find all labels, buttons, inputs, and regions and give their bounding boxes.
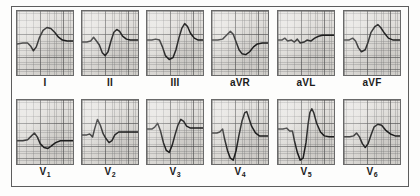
lead-label-sub-V4: 4	[242, 171, 246, 178]
lead-label-sub-V2: 2	[112, 171, 116, 178]
lead-panel-V3: V3	[146, 97, 204, 185]
lead-panel-aVL: aVL	[277, 8, 335, 96]
ecg-grid-paper-V2	[81, 99, 139, 165]
lead-label-text-V3: V	[170, 166, 177, 177]
figure-frame: I II III	[11, 6, 409, 187]
ecg-grid-paper-III	[146, 10, 204, 76]
ecg-waveform-path-V5	[278, 109, 334, 160]
lead-label-text-V4: V	[235, 166, 242, 177]
ecg-grid-paper-aVF	[343, 10, 401, 76]
ecg-trace-V5	[278, 100, 334, 164]
ecg-waveform-path-aVL	[278, 35, 334, 43]
ecg-grid-paper-V6	[343, 99, 401, 165]
lead-label-sub-V6: 6	[374, 171, 378, 178]
lead-panel-V5: V5	[277, 97, 335, 185]
lead-label-aVF: aVF	[343, 76, 401, 89]
ecg-waveform-path-II	[82, 29, 138, 55]
ecg-trace-V6	[344, 100, 400, 164]
ecg-trace-I	[17, 11, 73, 75]
ecg-trace-V1	[17, 100, 73, 164]
lead-label-sub-V5: 5	[308, 171, 312, 178]
ecg-grid-paper-V5	[277, 99, 335, 165]
lead-label-text-V2: V	[105, 166, 112, 177]
ecg-grid-paper-V4	[211, 99, 269, 165]
lead-label-V1: V1	[16, 165, 74, 179]
precordial-leads-row: V1 V2 V3	[12, 97, 410, 185]
ecg-grid-paper-aVR	[211, 10, 269, 76]
lead-panel-aVR: aVR	[211, 8, 269, 96]
ecg-waveform-path-V1	[17, 133, 73, 149]
ecg-figure: I II III	[0, 0, 420, 196]
lead-panel-II: II	[81, 8, 139, 96]
ecg-grid-paper-I	[16, 10, 74, 76]
lead-panel-V1: V1	[16, 97, 74, 185]
lead-label-aVR: aVR	[211, 76, 269, 89]
lead-label-text-I: I	[44, 77, 47, 88]
lead-panel-V4: V4	[211, 97, 269, 185]
ecg-waveform-path-I	[17, 27, 73, 50]
lead-panel-III: III	[146, 8, 204, 96]
lead-label-I: I	[16, 76, 74, 89]
ecg-trace-III	[147, 11, 203, 75]
lead-label-sub-V1: 1	[47, 171, 51, 178]
lead-label-text-V6: V	[367, 166, 374, 177]
lead-panel-aVF: aVF	[343, 8, 401, 96]
ecg-waveform-path-III	[147, 24, 203, 60]
ecg-waveform-path-V3	[147, 119, 203, 152]
lead-panel-I: I	[16, 8, 74, 96]
ecg-grid-paper-aVL	[277, 10, 335, 76]
ecg-trace-aVL	[278, 11, 334, 75]
lead-panel-V6: V6	[343, 97, 401, 185]
ecg-grid-paper-V3	[146, 99, 204, 165]
ecg-trace-V4	[212, 100, 268, 164]
ecg-trace-aVF	[344, 11, 400, 75]
ecg-waveform-path-V4	[212, 112, 268, 160]
ecg-trace-II	[82, 11, 138, 75]
lead-label-V4: V4	[211, 165, 269, 179]
ecg-trace-aVR	[212, 11, 268, 75]
lead-panel-V2: V2	[81, 97, 139, 185]
lead-label-sub-V3: 3	[177, 171, 181, 178]
limb-leads-row: I II III	[12, 8, 410, 96]
ecg-waveform-path-aVR	[212, 31, 268, 54]
lead-label-V2: V2	[81, 165, 139, 179]
ecg-waveform-path-aVF	[344, 25, 400, 52]
lead-label-V3: V3	[146, 165, 204, 179]
ecg-waveform-path-V6	[344, 124, 400, 147]
lead-label-text-V1: V	[40, 166, 47, 177]
ecg-trace-V3	[147, 100, 203, 164]
lead-label-text-V5: V	[301, 166, 308, 177]
lead-label-V6: V6	[343, 165, 401, 179]
ecg-grid-paper-V1	[16, 99, 74, 165]
lead-label-text-aVR: aVR	[230, 77, 250, 88]
lead-label-V5: V5	[277, 165, 335, 179]
ecg-waveform-path-V2	[82, 119, 138, 142]
lead-label-text-aVF: aVF	[363, 77, 382, 88]
lead-label-II: II	[81, 76, 139, 89]
lead-label-aVL: aVL	[277, 76, 335, 89]
lead-label-text-III: III	[171, 77, 180, 88]
lead-label-III: III	[146, 76, 204, 89]
ecg-trace-V2	[82, 100, 138, 164]
lead-label-text-aVL: aVL	[297, 77, 316, 88]
lead-label-text-II: II	[107, 77, 113, 88]
ecg-grid-paper-II	[81, 10, 139, 76]
